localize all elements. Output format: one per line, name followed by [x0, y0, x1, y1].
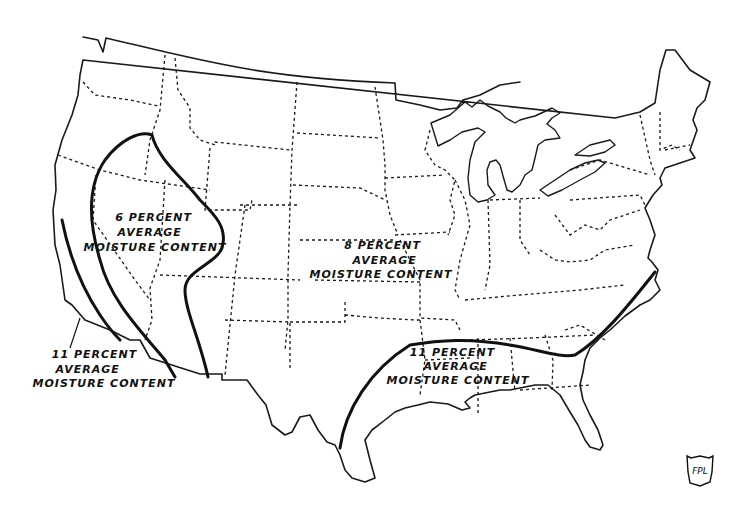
zone-label-11-percent-west: 11 PERCENT AVERAGE MOISTURE CONTENT: [33, 348, 176, 390]
zone-boundary-11-percent-south: [340, 272, 655, 448]
lake-ontario-shoreline: [575, 140, 615, 156]
label-leader-line: [70, 318, 80, 348]
zone-boundary-6-percent: [92, 134, 224, 377]
zone-label-11-percent-south: 11 PERCENT AVERAGE MOISTURE CONTENT: [387, 346, 530, 387]
us-moisture-map: 6 PERCENT AVERAGE MOISTURE CONTENT 8 PER…: [0, 0, 743, 513]
fpl-logo: FPL: [687, 456, 713, 486]
zone-label-6-percent: 6 PERCENT AVERAGE MOISTURE CONTENT: [84, 211, 227, 254]
svg-text:FPL: FPL: [692, 466, 708, 476]
zone-label-8-percent: 8 PERCENT AVERAGE MOISTURE CONTENT: [310, 239, 453, 281]
great-lakes-shoreline: [431, 100, 560, 202]
lake-erie-shoreline: [540, 160, 605, 196]
